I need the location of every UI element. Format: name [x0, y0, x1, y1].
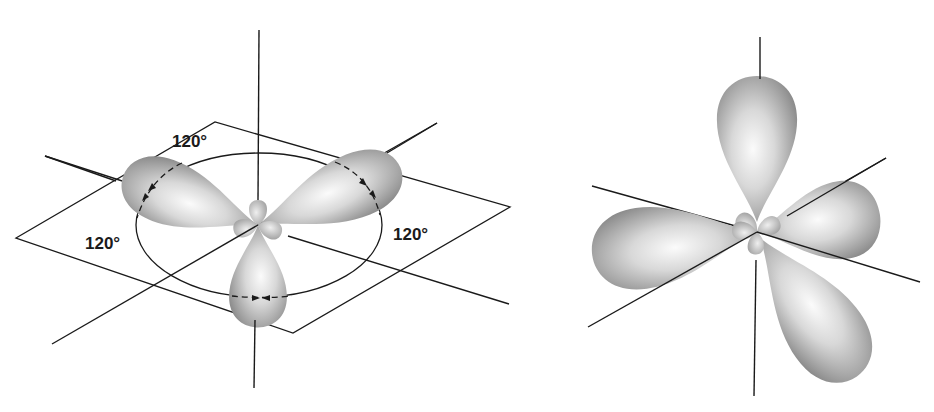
axis-lower-left	[52, 225, 258, 344]
sp3-figure	[587, 37, 920, 399]
orbital-lobe-top	[717, 76, 797, 222]
axis-right-outer	[387, 123, 437, 153]
axis-vertical	[258, 30, 259, 200]
orbital-lobe-left	[112, 146, 269, 256]
axis-vertical-lower	[254, 320, 255, 388]
angle-label-top: 120°	[172, 132, 207, 151]
axis-lower-right	[288, 236, 509, 304]
axis-left-outer	[45, 156, 116, 181]
angle-label-left: 120°	[85, 234, 120, 253]
sp2-figure: 120° 120° 120°	[16, 30, 510, 388]
axis-vertical-lower	[754, 260, 756, 396]
orbital-lobe-bottom	[229, 225, 287, 327]
orbital-diagram: 120° 120° 120°	[0, 0, 934, 412]
angle-label-right: 120°	[393, 225, 428, 244]
